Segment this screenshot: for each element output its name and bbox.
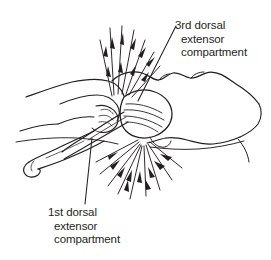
callout-label-1st-dorsal-extensor-compartment: 1st dorsal extensor compartment: [48, 206, 120, 247]
leader-line-upper: [138, 26, 176, 101]
callout-upper-line-2: extensor: [175, 33, 247, 47]
callout-label-3rd-dorsal-extensor-compartment: 3rd dorsal extensor compartment: [175, 19, 247, 60]
anatomy-figure: 3rd dorsal extensor compartment 1st dors…: [0, 0, 271, 260]
examiner-hand: [20, 79, 124, 132]
lower-tenderness-arrowheads: [108, 152, 172, 192]
callout-lower-line-2: extensor: [48, 220, 120, 234]
leader-line-lower: [85, 138, 92, 204]
callout-upper-line-1: 3rd dorsal: [175, 19, 247, 33]
background-hand-contour: [16, 138, 244, 150]
callout-lower-line-3: compartment: [48, 233, 120, 247]
callout-lower-line-1: 1st dorsal: [48, 206, 120, 220]
callout-upper-line-3: compartment: [175, 46, 247, 60]
